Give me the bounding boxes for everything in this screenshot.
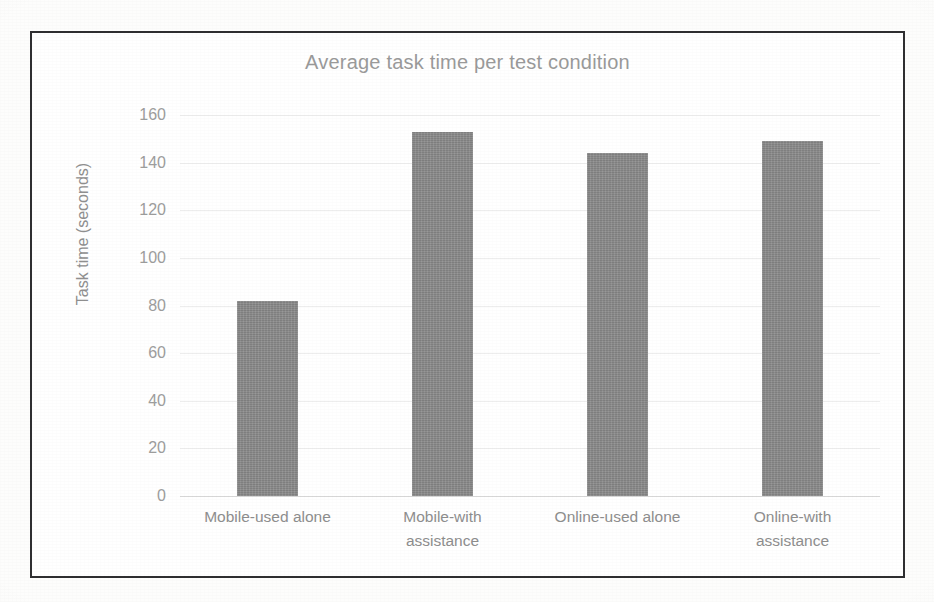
bar-2	[412, 132, 473, 496]
y-tick-label-60: 60	[120, 344, 166, 362]
x-tick-label-line: Mobile-with	[355, 505, 531, 529]
x-tick-label-line: Mobile-used alone	[180, 505, 356, 529]
y-tick-label-40: 40	[120, 392, 166, 410]
x-tick-label-3: Online-used alone	[530, 505, 706, 529]
y-tick-label-140: 140	[120, 154, 166, 172]
y-tick-label-80: 80	[120, 297, 166, 315]
y-axis-tick-labels: 020406080100120140160	[120, 109, 166, 496]
x-tick-label-4: Online-withassistance	[705, 505, 881, 553]
chart-title: Average task time per test condition	[32, 51, 903, 74]
y-tick-label-0: 0	[120, 487, 166, 505]
bar-4	[762, 141, 823, 496]
gridline-160	[180, 115, 880, 116]
x-tick-label-line: Online-with	[705, 505, 881, 529]
y-tick-label-120: 120	[120, 201, 166, 219]
bar-3	[587, 153, 648, 496]
plot-area: Mobile-used aloneMobile-withassistanceOn…	[180, 109, 880, 496]
bar-1	[237, 301, 298, 496]
x-tick-label-line: Online-used alone	[530, 505, 706, 529]
figure-frame: Average task time per test condition Tas…	[30, 31, 905, 578]
x-tick-label-line: assistance	[355, 529, 531, 553]
x-tick-label-1: Mobile-used alone	[180, 505, 356, 529]
y-tick-label-160: 160	[120, 106, 166, 124]
x-tick-label-line: assistance	[705, 529, 881, 553]
y-axis-title: Task time (seconds)	[74, 134, 92, 334]
x-tick-label-2: Mobile-withassistance	[355, 505, 531, 553]
y-tick-label-20: 20	[120, 439, 166, 457]
gridline-0	[180, 496, 880, 497]
y-tick-label-100: 100	[120, 249, 166, 267]
